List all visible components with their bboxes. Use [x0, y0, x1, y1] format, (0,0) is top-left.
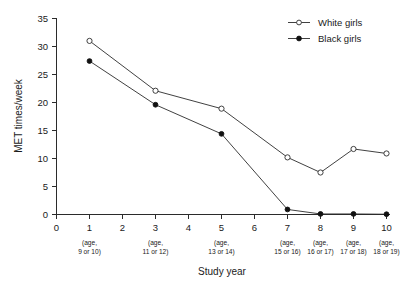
age-sublabel-line2: 16 or 17): [307, 248, 333, 256]
series-line: [90, 61, 387, 214]
data-point-marker[interactable]: [219, 131, 224, 136]
y-axis-title: MET times/week: [13, 78, 24, 153]
age-sublabel-line1: (age,: [148, 239, 163, 247]
y-axis-ticks: [52, 19, 57, 215]
age-sublabel-line2: 17 or 18): [340, 248, 366, 256]
y-axis-tick-labels: 35 30 25 20 15 10 5 0: [37, 13, 48, 220]
x-tick-label: 6: [252, 222, 257, 233]
age-sublabel-line1: (age,: [280, 239, 295, 247]
legend-label-black-girls: Black girls: [318, 33, 362, 44]
series-layer: [87, 38, 389, 216]
x-tick-label: 2: [120, 222, 125, 233]
y-tick-label: 35: [37, 13, 48, 24]
x-tick-label: 9: [351, 222, 356, 233]
x-axis-age-sublabels: (age, 9 or 10) (age, 11 or 12) (age, 13 …: [78, 239, 400, 256]
age-sublabel-line2: 18 or 19): [373, 248, 399, 256]
x-tick-label: 5: [219, 222, 224, 233]
x-axis-ticks: [57, 215, 387, 220]
series-white-girls: [87, 38, 389, 175]
legend-entry-white-girls[interactable]: White girls: [288, 17, 363, 28]
y-tick-label: 20: [37, 97, 48, 108]
data-point-marker[interactable]: [384, 151, 389, 156]
y-tick-label: 25: [37, 69, 48, 80]
data-point-marker[interactable]: [285, 155, 290, 160]
data-point-marker[interactable]: [153, 102, 158, 107]
y-tick-label: 5: [43, 181, 48, 192]
age-sublabel-line2: 13 or 14): [208, 248, 234, 256]
age-sublabel-line1: (age,: [313, 239, 328, 247]
x-tick-label: 3: [153, 222, 158, 233]
legend-marker-open-circle-icon: [297, 20, 302, 25]
data-point-marker[interactable]: [87, 59, 92, 64]
y-tick-label: 15: [37, 125, 48, 136]
data-point-marker[interactable]: [318, 170, 323, 175]
age-sublabel-line1: (age,: [346, 239, 361, 247]
data-point-marker[interactable]: [219, 106, 224, 111]
chart-container: 35 30 25 20 15 10 5 0 0 1 2: [0, 0, 411, 286]
legend-label-white-girls: White girls: [318, 17, 363, 28]
data-point-marker[interactable]: [285, 207, 290, 212]
legend-marker-filled-circle-icon: [297, 36, 302, 41]
age-sublabel-line2: 9 or 10): [78, 248, 101, 256]
data-point-marker[interactable]: [351, 146, 356, 151]
x-tick-label: 10: [381, 222, 392, 233]
data-point-marker[interactable]: [87, 38, 92, 43]
x-axis-title: Study year: [198, 266, 246, 277]
x-tick-label: 0: [54, 222, 59, 233]
y-tick-label: 0: [43, 209, 48, 220]
age-sublabel-line1: (age,: [214, 239, 229, 247]
age-sublabel-line1: (age,: [379, 239, 394, 247]
age-sublabel-line2: 15 or 16): [274, 248, 300, 256]
x-tick-label: 4: [186, 222, 191, 233]
x-tick-label: 7: [285, 222, 290, 233]
chart-legend: White girls Black girls: [288, 17, 363, 44]
age-sublabel-line1: (age,: [82, 239, 97, 247]
y-tick-label: 30: [37, 41, 48, 52]
series-black-girls: [87, 59, 389, 217]
data-point-marker[interactable]: [318, 212, 323, 217]
x-axis-tick-labels: 0 1 2 3 4 5 6 7 8 9 10: [54, 222, 392, 233]
line-chart: 35 30 25 20 15 10 5 0 0 1 2: [0, 0, 411, 286]
x-tick-label: 8: [318, 222, 323, 233]
x-tick-label: 1: [87, 222, 92, 233]
data-point-marker[interactable]: [153, 88, 158, 93]
legend-entry-black-girls[interactable]: Black girls: [288, 33, 362, 44]
age-sublabel-line2: 11 or 12): [143, 248, 169, 256]
y-tick-label: 10: [37, 153, 48, 164]
data-point-marker[interactable]: [351, 212, 356, 217]
data-point-marker[interactable]: [384, 212, 389, 217]
